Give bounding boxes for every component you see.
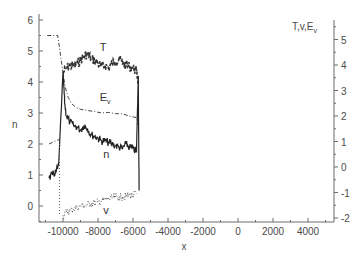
y-tick-label-right: -2 <box>341 213 350 224</box>
y-tick-label-left: 5 <box>27 46 33 57</box>
y-tick-label-left: 2 <box>27 139 33 150</box>
series-v <box>63 191 137 218</box>
y-tick-label-right: 3 <box>341 86 347 97</box>
x-tick-label: 2000 <box>262 226 285 237</box>
y-tick-label-left: 1 <box>27 170 33 181</box>
x-tick-label: 4000 <box>297 226 320 237</box>
series-t <box>63 52 138 84</box>
chart: -10000-8000-6000-4000-200002000400001234… <box>0 0 364 260</box>
y-axis-title-left: n <box>12 119 18 130</box>
curve-label-v: v <box>103 204 109 216</box>
y-tick-label-right: 1 <box>341 137 347 148</box>
y-tick-label-right: 0 <box>341 162 347 173</box>
y-tick-label-right: -1 <box>341 188 350 199</box>
x-tick-label: -8000 <box>85 226 111 237</box>
x-tick-label: -4000 <box>155 226 181 237</box>
curves <box>47 36 139 219</box>
curve-label-n: n <box>103 148 109 160</box>
labels: n x T,v,Ev TEvnv <box>12 21 317 252</box>
x-tick-label: 0 <box>235 226 241 237</box>
y-tick-label-left: 3 <box>27 108 33 119</box>
series-e-v-pre-shock- <box>49 139 60 144</box>
y-tick-label-right: 2 <box>341 111 347 122</box>
y-tick-label-left: 6 <box>27 15 33 26</box>
x-tick-label: -10000 <box>47 226 79 237</box>
y-tick-label-right: 4 <box>341 60 347 71</box>
x-tick-label: -6000 <box>120 226 146 237</box>
y-axis-title-right: T,v,Ev <box>292 21 317 34</box>
y-tick-label-right: 5 <box>341 35 347 46</box>
curve-label-e: Ev <box>100 91 111 105</box>
series-n <box>49 73 139 191</box>
y-tick-label-left: 0 <box>27 201 33 212</box>
curve-label-t: T <box>100 41 107 53</box>
x-tick-label: -2000 <box>190 226 216 237</box>
y-tick-label-left: 4 <box>27 77 33 88</box>
x-axis-title: x <box>182 241 187 252</box>
